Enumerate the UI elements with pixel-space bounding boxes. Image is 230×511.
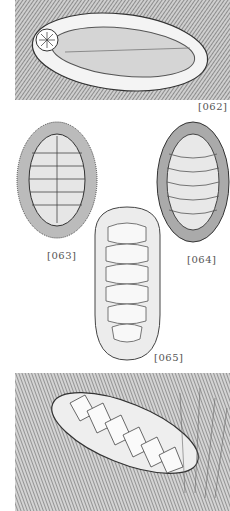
figure-label-065: [065]: [154, 352, 183, 363]
figure-066-illustration: [15, 373, 230, 511]
figure-label-064: [064]: [187, 254, 216, 265]
figure-label-062: [062]: [198, 101, 227, 112]
figure-062-illustration: [15, 0, 230, 100]
figure-063-illustration: [12, 118, 102, 243]
figure-label-063: [063]: [47, 250, 76, 261]
figure-065-illustration: [90, 205, 165, 365]
